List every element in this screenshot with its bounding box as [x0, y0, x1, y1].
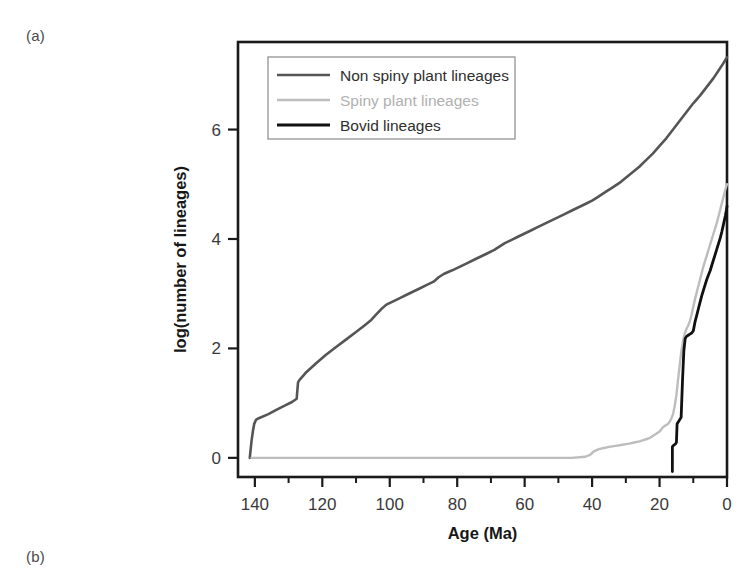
legend-label-non-spiny: Non spiny plant lineages	[340, 67, 509, 84]
x-tick-label: 120	[308, 495, 336, 514]
series-line-bovid	[672, 206, 727, 471]
x-tick-label: 0	[722, 495, 731, 514]
y-tick-label: 6	[212, 121, 221, 140]
y-tick-label: 0	[212, 449, 221, 468]
x-tick-label: 80	[448, 495, 467, 514]
series-line-spiny	[251, 184, 727, 458]
chart-svg: 1401201008060402000246Age (Ma)log(number…	[0, 0, 756, 579]
x-tick-label: 40	[583, 495, 602, 514]
y-tick-label: 4	[212, 230, 221, 249]
legend-label-bovid: Bovid lineages	[340, 117, 441, 134]
x-tick-label: 20	[650, 495, 669, 514]
y-tick-label: 2	[212, 339, 221, 358]
x-tick-label: 140	[241, 495, 269, 514]
figure-root: (a) (b) 1401201008060402000246Age (Ma)lo…	[0, 0, 756, 579]
x-tick-label: 100	[376, 495, 404, 514]
x-tick-label: 60	[515, 495, 534, 514]
lineage-through-time-chart: 1401201008060402000246Age (Ma)log(number…	[0, 0, 756, 579]
legend-label-spiny: Spiny plant lineages	[340, 92, 479, 109]
x-axis-title: Age (Ma)	[448, 524, 518, 542]
y-axis-title: log(number of lineages)	[171, 166, 189, 353]
